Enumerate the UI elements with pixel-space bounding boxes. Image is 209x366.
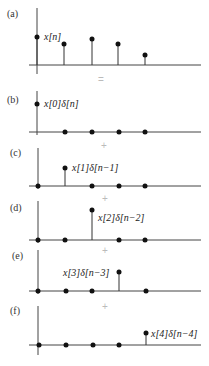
- sample-dot-n3: [116, 42, 121, 47]
- panel-b-label: (b): [7, 94, 19, 106]
- panel-c: (c) x[1]δ[n−1]: [10, 147, 201, 189]
- signal-label-f: x[4]δ[n−4]: [150, 328, 198, 339]
- plus-sign: +: [102, 193, 108, 204]
- equals-sign: =: [98, 74, 104, 85]
- impulse-dot: [90, 208, 95, 213]
- signal-label-c: x[1]δ[n−1]: [71, 162, 119, 173]
- panel-f-label: (f): [10, 305, 20, 317]
- panel-e: (e) x[3]δ[n−3]: [12, 250, 201, 294]
- impulse-dot: [35, 102, 40, 107]
- signal-label-a: x[n]: [43, 31, 61, 42]
- signal-label-b: x[0]δ[n]: [43, 98, 79, 109]
- panel-d-label: (d): [10, 202, 22, 214]
- sample-dot-n2: [90, 37, 95, 42]
- impulse-dot: [144, 331, 149, 336]
- signal-label-e: x[3]δ[n−3]: [62, 267, 110, 278]
- panel-e-label: (e): [12, 250, 23, 262]
- plus-sign: +: [101, 140, 107, 151]
- signal-label-d: x[2]δ[n−2]: [97, 212, 145, 223]
- panel-f: (f) x[4]δ[n−4]: [10, 305, 201, 355]
- sample-dot-n4: [143, 53, 148, 58]
- panel-c-label: (c): [10, 147, 21, 159]
- impulse-dot: [63, 166, 68, 171]
- panel-b: (b) x[0]δ[n]: [7, 91, 201, 135]
- panel-a: (a) x[n]: [7, 8, 201, 74]
- impulse-decomposition-diagram: (a) x[n] = (b) x[0]δ[n] + (c): [0, 0, 209, 366]
- sample-dot-n1: [62, 42, 67, 47]
- impulse-dot: [117, 270, 122, 275]
- plus-sign: +: [102, 245, 108, 256]
- panel-d: (d) x[2]δ[n−2]: [10, 201, 201, 243]
- plus-sign: +: [102, 301, 108, 312]
- sample-dot-n0: [35, 35, 40, 40]
- panel-a-label: (a): [7, 8, 18, 20]
